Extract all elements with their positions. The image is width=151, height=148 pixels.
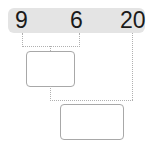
connector-9-6	[22, 33, 80, 47]
answer-box-2[interactable]	[60, 104, 124, 140]
number-20: 20	[120, 6, 146, 34]
number-9: 9	[15, 6, 28, 34]
connector-box1	[50, 86, 133, 101]
number-6: 6	[70, 6, 83, 34]
answer-box-1[interactable]	[26, 51, 75, 87]
connector-20	[132, 33, 133, 100]
